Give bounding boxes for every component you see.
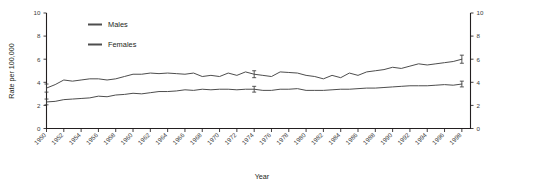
y-tick-label-left: 0: [37, 125, 41, 132]
x-tick-label: 1974: [240, 131, 255, 146]
y-tick-label-right: 6: [477, 56, 481, 63]
x-tick-label: 1998: [448, 131, 463, 146]
x-tick-label: 1980: [292, 131, 307, 146]
x-tick-label: 1978: [275, 131, 290, 146]
x-tick-label: 1996: [431, 131, 446, 146]
y-axis-title-text: Rate per 100,000: [7, 43, 16, 99]
y-tick-label-right: 8: [477, 32, 481, 39]
x-tick-label: 1950: [33, 131, 48, 146]
error-bar-males: [45, 84, 49, 92]
line-chart: Rate per 100,000 0246810 0246810 1950195…: [0, 0, 534, 193]
x-tick-label: 1994: [413, 131, 428, 146]
x-tick-label: 1984: [327, 131, 342, 146]
y-tick-label-right: 0: [477, 125, 481, 132]
y-tick-label-left: 8: [37, 32, 41, 39]
x-tick-label: 1988: [361, 131, 376, 146]
x-tick-label: 1982: [309, 131, 324, 146]
y-tick-label-left: 2: [37, 102, 41, 109]
x-tick-label: 1954: [67, 131, 82, 146]
x-tick-label: 1970: [206, 131, 221, 146]
y-tick-label-left: 10: [34, 9, 41, 16]
y-axis-right-ticks: 0246810: [471, 9, 484, 132]
x-tick-label: 1992: [396, 131, 411, 146]
chart-container: Rate per 100,000 0246810 0246810 1950195…: [0, 0, 534, 193]
y-tick-label-right: 2: [477, 102, 481, 109]
x-tick-label: 1952: [50, 131, 65, 146]
y-axis-title: Rate per 100,000: [7, 43, 16, 99]
x-tick-label: 1968: [188, 131, 203, 146]
x-tick-label: 1972: [223, 131, 238, 146]
x-axis-title-text: Year: [255, 172, 270, 181]
y-tick-label-right: 4: [477, 79, 481, 86]
y-tick-label-left: 4: [37, 79, 41, 86]
series-layer: [47, 59, 462, 102]
x-tick-label: 1990: [379, 131, 394, 146]
legend-label-males: Males: [108, 20, 128, 29]
x-tick-label: 1964: [154, 131, 169, 146]
y-tick-label-left: 6: [37, 56, 41, 63]
x-tick-label: 1966: [171, 131, 186, 146]
x-tick-label: 1986: [344, 131, 359, 146]
y-tick-label-right: 10: [477, 9, 484, 16]
x-tick-label: 1958: [102, 131, 117, 146]
x-axis-ticks: 1950195219541956195819601962196419661968…: [33, 129, 463, 146]
x-tick-label: 1976: [258, 131, 273, 146]
x-tick-label: 1960: [119, 131, 134, 146]
x-tick-label: 1962: [136, 131, 151, 146]
x-tick-label: 1956: [84, 131, 99, 146]
y-axis-left-ticks: 0246810: [34, 9, 47, 132]
legend: Males Females: [88, 20, 137, 49]
legend-label-females: Females: [108, 40, 137, 49]
